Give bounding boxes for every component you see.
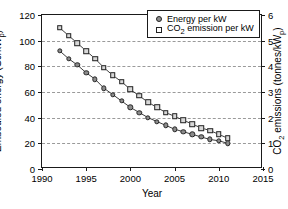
- data-point-square: [92, 56, 98, 62]
- y-tick-label-right: 1: [268, 138, 273, 149]
- data-point-square: [216, 132, 222, 138]
- y-axis-right-title-suffix: ): [272, 27, 283, 30]
- data-point-square: [101, 65, 107, 71]
- legend-circle-marker-icon: [152, 16, 166, 22]
- y-axis-left-title-suffix: ): [0, 30, 3, 33]
- y-tick-label-left: 100: [19, 35, 35, 46]
- y-tick-right: [261, 118, 265, 119]
- y-tick-label-right: 2: [268, 112, 273, 123]
- y-tick-right: [261, 41, 265, 42]
- y-tick-label-left: 80: [24, 61, 35, 72]
- y-axis-right-title-sub1: 2: [277, 135, 286, 139]
- data-point-square: [181, 117, 187, 123]
- data-point-square: [83, 48, 89, 54]
- data-point-square: [119, 79, 125, 85]
- y-axis-left-title: Embodied energy (GJ/kWp): [0, 30, 6, 152]
- legend-item-energy-label: Energy per kW: [167, 14, 227, 24]
- y-tick-label-left: 120: [19, 10, 35, 21]
- y-tick-label-left: 20: [24, 138, 35, 149]
- y-axis-right-title: CO2 emissions (tonnes/kWp): [272, 27, 286, 154]
- x-tick-label: 2005: [164, 173, 185, 184]
- x-tick-label: 2010: [208, 173, 229, 184]
- x-tick: [86, 167, 87, 171]
- y-axis-right-title-sub2: p: [277, 31, 286, 35]
- x-tick: [42, 167, 43, 171]
- data-point-square: [154, 105, 160, 111]
- y-axis-left-title-text: Embodied energy (GJ/kW: [0, 38, 3, 153]
- y-axis-left-title-sub: p: [0, 33, 6, 37]
- y-tick-label-left: 40: [24, 112, 35, 123]
- data-point-square: [198, 125, 204, 131]
- y-tick-right: [261, 143, 265, 144]
- data-point-square: [110, 73, 116, 79]
- legend-item-co2: CO2 emission per kW: [152, 24, 254, 35]
- y-axis-right-title-prefix: CO: [272, 140, 283, 155]
- y-tick-label-right: 6: [268, 10, 273, 21]
- x-tick-label: 1990: [31, 173, 52, 184]
- chart-legend: Energy per kW CO2 emission per kW: [147, 10, 260, 38]
- y-tick-right: [261, 15, 265, 16]
- data-point-square: [57, 25, 63, 31]
- x-tick-label: 2000: [120, 173, 141, 184]
- chart-figure: Embodied energy (GJ/kWp) CO2 emissions (…: [0, 0, 288, 209]
- x-tick: [175, 167, 176, 171]
- x-tick: [263, 167, 264, 171]
- data-point-square: [136, 93, 142, 99]
- data-point-square: [145, 99, 151, 105]
- data-point-square: [128, 87, 134, 93]
- data-point-square: [172, 114, 178, 120]
- x-tick-label: 2015: [252, 173, 273, 184]
- y-tick-label-right: 4: [268, 61, 273, 72]
- data-point-square: [66, 33, 72, 39]
- data-point-square: [189, 121, 195, 127]
- data-point-square: [225, 135, 231, 141]
- y-axis-right-title-mid: emissions (tonnes/kW: [272, 35, 283, 136]
- legend-item-co2-label: CO2 emission per kW: [167, 23, 254, 36]
- y-tick-right: [261, 66, 265, 67]
- y-tick-label-left: 60: [24, 87, 35, 98]
- x-axis-title: Year: [142, 188, 162, 199]
- data-point-square: [75, 40, 81, 46]
- y-tick-label-right: 3: [268, 87, 273, 98]
- legend-square-marker-icon: [152, 27, 166, 33]
- data-point-square: [207, 128, 213, 134]
- x-tick-label: 1995: [76, 173, 97, 184]
- data-point-square: [163, 110, 169, 116]
- y-tick-right: [261, 92, 265, 93]
- series-line-2: [60, 28, 228, 138]
- y-tick-label-right: 5: [268, 35, 273, 46]
- x-tick: [130, 167, 131, 171]
- x-tick: [219, 167, 220, 171]
